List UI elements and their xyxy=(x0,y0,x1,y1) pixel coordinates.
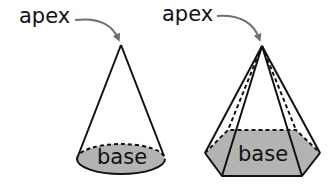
cone-base-label: base xyxy=(97,147,147,168)
cone-left-side xyxy=(78,45,121,156)
pyramid-hidden-edge-left xyxy=(228,46,262,130)
pyramid-base-label: base xyxy=(238,144,288,165)
cone-apex-arrow xyxy=(75,19,118,38)
pyramid-apex-label: apex xyxy=(162,4,213,25)
cone-apex-label: apex xyxy=(19,6,70,27)
pyramid-hidden-edge-right xyxy=(262,46,296,130)
pyramid-apex-arrow xyxy=(217,16,259,38)
cone-right-side xyxy=(121,45,164,156)
